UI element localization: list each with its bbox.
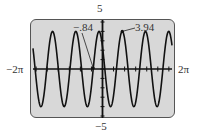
x-min-label: −2π [6, 64, 23, 75]
y-min-label: −5 [95, 121, 107, 132]
y-max-label: 5 [97, 3, 103, 14]
x-max-label: 2π [178, 64, 189, 75]
maximum-annotation: 3.94 [135, 22, 154, 33]
graph-plot [0, 0, 199, 134]
zero-crossing-annotation: −.84 [73, 22, 93, 33]
